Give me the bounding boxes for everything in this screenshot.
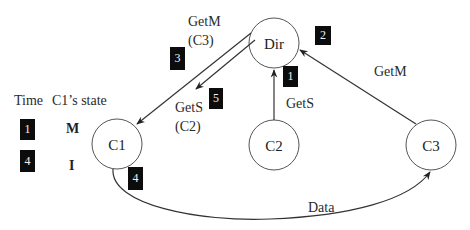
node-dir-label: Dir (264, 36, 284, 53)
legend-state-m: M (66, 121, 79, 137)
edge-c1-c3-data (113, 169, 430, 219)
edge-sublabel-c2: (C2) (175, 119, 201, 135)
edge-label-gets-dir-c1: GetS (175, 100, 203, 116)
legend-time-header: Time (14, 93, 43, 109)
step-badge-1: 1 (283, 66, 298, 87)
step-badge-5: 5 (209, 88, 223, 109)
step-badge-4: 4 (128, 167, 143, 190)
node-c2-label: C2 (265, 138, 283, 155)
step-badge-3: 3 (170, 47, 185, 70)
legend-state-i: I (69, 158, 74, 174)
node-c1-label: C1 (108, 137, 126, 154)
step-badge-2: 2 (315, 26, 331, 45)
node-c3-label: C3 (422, 138, 440, 155)
edge-label-gets-c2-dir: GetS (286, 96, 314, 112)
edge-label-data: Data (308, 200, 334, 216)
edge-label-getm-c3-dir: GetM (374, 64, 407, 80)
edge-c3-dir-getm (300, 50, 416, 124)
edge-label-getm-dir-c1: GetM (188, 14, 221, 30)
legend-time-badge-4: 4 (20, 150, 35, 172)
legend-time-badge-1: 1 (20, 119, 35, 140)
edge-sublabel-c3: (C3) (188, 33, 214, 49)
legend-state-header: C1’s state (52, 93, 107, 109)
diagram-canvas (0, 0, 470, 230)
